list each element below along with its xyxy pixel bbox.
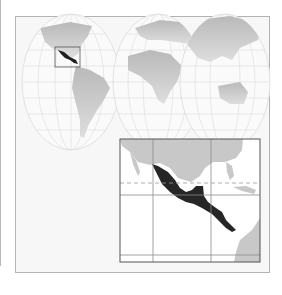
lobe-asia-australia: [178, 14, 272, 150]
inset-map: [120, 139, 260, 262]
lobe-americas: [20, 10, 125, 155]
map-graphic: [0, 0, 282, 295]
world-map: [20, 10, 272, 155]
